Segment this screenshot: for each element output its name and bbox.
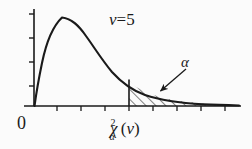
chi-square-distribution-figure: ν=5 α 0 χ2α(ν) xyxy=(0,0,252,149)
nu-symbol: ν xyxy=(109,10,117,29)
equals-sign: = xyxy=(117,10,127,29)
argument-nu: ν xyxy=(126,119,134,138)
x-axis-label: χ2α(ν) xyxy=(110,119,147,140)
argument-close-paren: ) xyxy=(134,119,140,138)
nu-value: 5 xyxy=(126,10,135,29)
alpha-annotation-arrow xyxy=(161,69,187,91)
alpha-label: α xyxy=(181,55,189,70)
nu-parameter-label: ν=5 xyxy=(109,11,135,28)
origin-label: 0 xyxy=(17,114,26,132)
chi-subscript: α xyxy=(109,131,114,142)
chi-superscript: 2 xyxy=(110,117,115,128)
